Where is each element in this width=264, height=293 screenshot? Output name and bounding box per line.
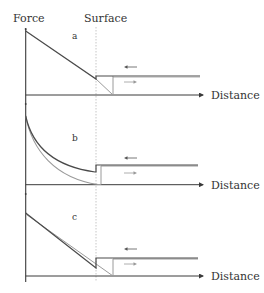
y-tick-b <box>25 103 27 105</box>
panel-label-c: c <box>72 212 77 222</box>
figure-canvas: Force Surface Distance a <box>0 0 264 293</box>
retract-curve-a <box>96 76 113 95</box>
x-axis-label-b: Distance <box>211 179 260 192</box>
arrow-right-a <box>124 80 137 83</box>
arrow-right-b <box>124 171 137 174</box>
y-axis-tip <box>25 28 27 30</box>
surface-label: Surface <box>84 12 127 25</box>
arrow-right-c <box>124 262 137 265</box>
x-axis-label-c: Distance <box>211 270 260 283</box>
approach-curve-c <box>26 213 198 268</box>
force-distance-figure: Force Surface Distance a <box>0 0 264 293</box>
arrow-left-a <box>124 65 137 68</box>
panel-b: Distance b <box>25 103 260 191</box>
approach-curve-a <box>26 31 200 79</box>
retract-curve-c <box>26 214 198 276</box>
panel-c: Distance c <box>25 193 260 282</box>
y-axis-label: Force <box>13 12 45 25</box>
x-axis-label-a: Distance <box>211 89 260 102</box>
panel-label-a: a <box>72 31 78 41</box>
panel-label-b: b <box>72 133 78 143</box>
retract-curve-b <box>26 116 98 185</box>
panel-a: Distance a <box>26 31 260 102</box>
arrow-left-b <box>124 156 137 159</box>
y-tick-c <box>25 193 27 195</box>
retract-step-b <box>98 166 198 185</box>
arrow-left-c <box>124 247 137 250</box>
